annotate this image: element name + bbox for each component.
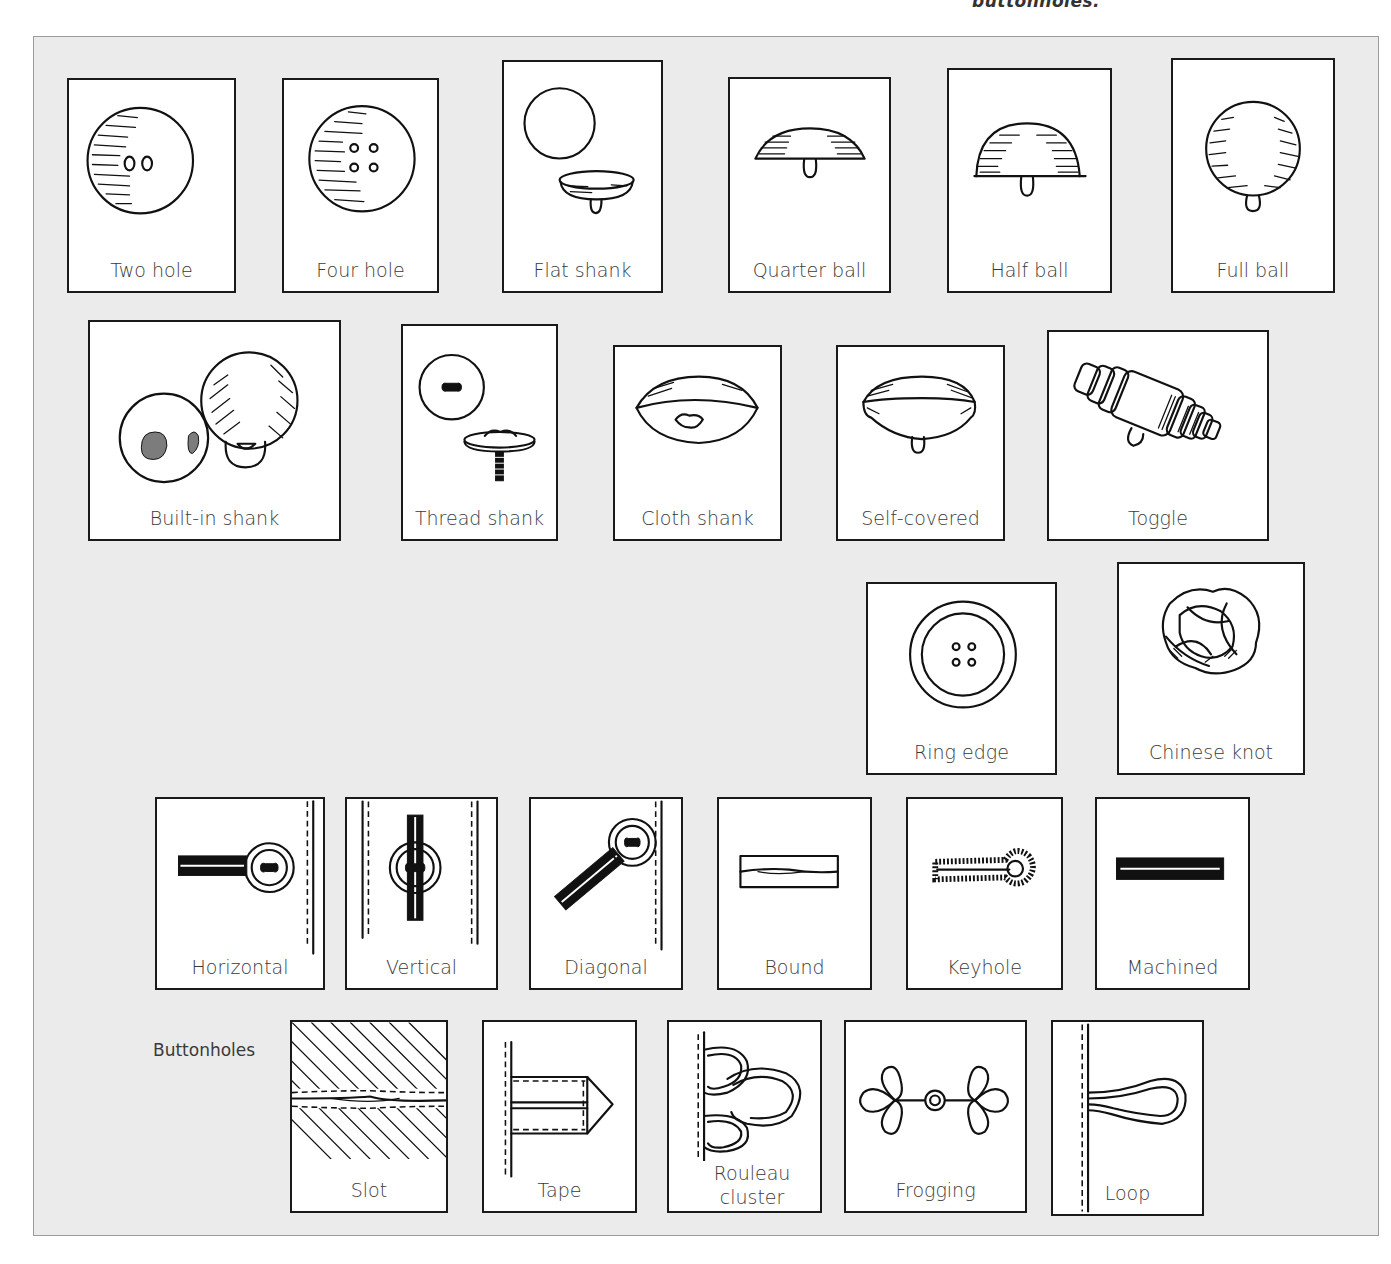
card-label: Rouleau cluster — [696, 1161, 808, 1209]
card-frogging: Frogging — [844, 1020, 1027, 1213]
card-two-hole: Two hole — [67, 78, 236, 293]
card-vertical: Vertical — [345, 797, 498, 990]
card-label: Thread shank — [403, 507, 556, 529]
card-label: Frogging — [846, 1179, 1025, 1201]
card-keyhole: Keyhole — [906, 797, 1063, 990]
card-ring-edge: Ring edge — [866, 582, 1057, 775]
card-label: Toggle — [1049, 507, 1267, 529]
top-caption: buttonholes. — [972, 0, 1100, 11]
flat-shank-button-icon — [504, 62, 661, 291]
card-label: Cloth shank — [615, 507, 780, 529]
card-built-in-shank: Built-in shank — [88, 320, 341, 541]
card-label: Chinese knot — [1119, 741, 1303, 763]
card-label: Ring edge — [868, 741, 1055, 763]
card-toggle: Toggle — [1047, 330, 1269, 541]
card-full-ball: Full ball — [1171, 58, 1335, 293]
card-thread-shank: Thread shank — [401, 324, 558, 541]
card-label: Full ball — [1173, 259, 1333, 281]
card-label: Half ball — [949, 259, 1110, 281]
card-label: Diagonal — [531, 956, 681, 978]
card-quarter-ball: Quarter ball — [728, 77, 891, 293]
buttonholes-section-label: Buttonholes — [153, 1040, 255, 1060]
card-label: Machined — [1097, 956, 1248, 978]
card-label: Horizontal — [157, 956, 323, 978]
card-loop: Loop — [1051, 1020, 1204, 1216]
card-label: Loop — [1053, 1182, 1202, 1204]
card-label: Built-in shank — [90, 507, 339, 529]
half-ball-button-icon — [949, 70, 1110, 291]
card-label: Keyhole — [908, 956, 1061, 978]
card-label: Bound — [719, 956, 870, 978]
card-horizontal: Horizontal — [155, 797, 325, 990]
card-diagonal: Diagonal — [529, 797, 683, 990]
card-four-hole: Four hole — [282, 78, 439, 293]
card-label: Self-covered — [838, 507, 1003, 529]
card-label: Flat shank — [504, 259, 661, 281]
card-tape: Tape — [482, 1020, 637, 1213]
card-cloth-shank: Cloth shank — [613, 345, 782, 541]
full-ball-button-icon — [1173, 60, 1333, 291]
card-label: Tape — [484, 1179, 635, 1201]
label-line-1: Rouleau — [696, 1161, 808, 1185]
card-label: Quarter ball — [730, 259, 889, 281]
card-label: Slot — [292, 1179, 446, 1201]
card-label: Vertical — [347, 956, 496, 978]
label-line-2: cluster — [696, 1185, 808, 1209]
card-half-ball: Half ball — [947, 68, 1112, 293]
card-flat-shank: Flat shank — [502, 60, 663, 293]
card-label: Two hole — [69, 259, 234, 281]
card-self-covered: Self-covered — [836, 345, 1005, 541]
card-rouleau-cluster: Rouleau cluster — [667, 1020, 822, 1213]
card-label: Four hole — [284, 259, 437, 281]
card-chinese-knot: Chinese knot — [1117, 562, 1305, 775]
card-bound: Bound — [717, 797, 872, 990]
card-machined: Machined — [1095, 797, 1250, 990]
card-slot: Slot — [290, 1020, 448, 1213]
